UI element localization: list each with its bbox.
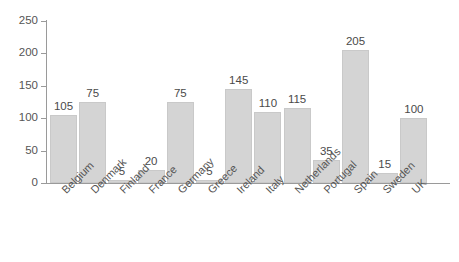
bar-value-label: 205 xyxy=(336,36,375,48)
bar-value-label: 115 xyxy=(278,94,317,106)
y-axis-tick xyxy=(41,21,47,22)
y-axis-tick xyxy=(41,151,47,152)
y-axis-tick xyxy=(41,53,47,54)
y-axis-tick-label: 100 xyxy=(0,112,38,124)
bar-value-label: 75 xyxy=(161,88,200,100)
y-axis-tick-label: 150 xyxy=(0,80,38,92)
y-axis-tick-label: 250 xyxy=(0,15,38,27)
y-axis-tick-label: 200 xyxy=(0,47,38,59)
bar-value-label: 105 xyxy=(44,101,83,113)
y-axis-tick xyxy=(41,118,47,119)
bar-chart: 050100150200250 105755207551451101153520… xyxy=(0,0,459,262)
bar-value-label: 145 xyxy=(219,75,258,87)
bar-value-label: 100 xyxy=(394,104,433,116)
bar-value-label: 75 xyxy=(73,88,112,100)
y-axis-tick-label: 0 xyxy=(0,177,38,189)
y-axis-tick xyxy=(41,86,47,87)
y-axis-tick-label: 50 xyxy=(0,145,38,157)
y-axis-tick xyxy=(41,183,47,184)
